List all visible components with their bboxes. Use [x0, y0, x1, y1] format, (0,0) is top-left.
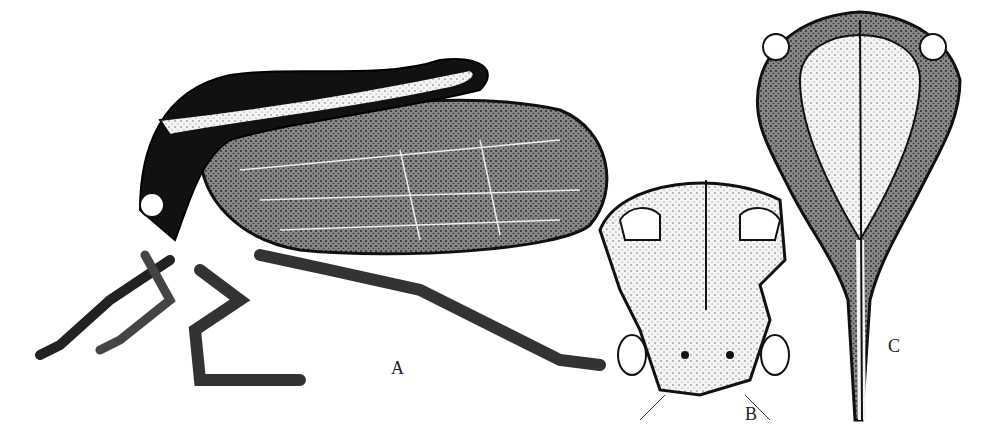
- panel-label-b: B: [745, 404, 757, 425]
- panel-label-a: A: [391, 358, 404, 379]
- panel-b-drawing: [600, 180, 789, 420]
- figure: A B C: [0, 0, 994, 447]
- panel-label-c: C: [888, 336, 900, 357]
- panel-a-drawing: [40, 59, 607, 380]
- insect-illustration: [0, 0, 994, 447]
